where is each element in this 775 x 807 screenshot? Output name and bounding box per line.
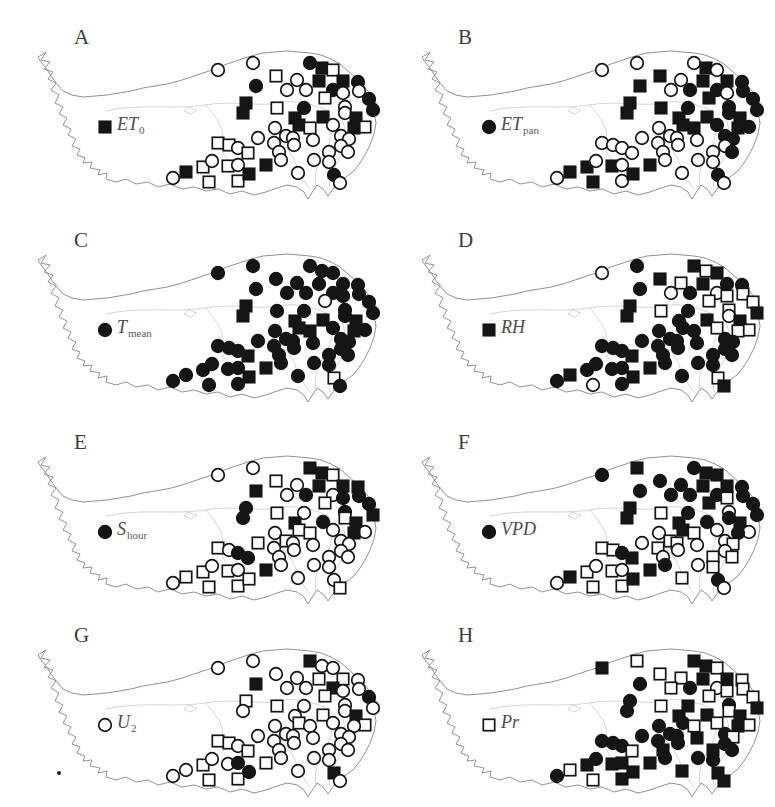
- station-marker-filled-square: [337, 75, 348, 86]
- station-marker-filled-square: [627, 766, 638, 777]
- station-marker-open-square: [721, 685, 732, 696]
- station-marker-open-square: [626, 745, 637, 756]
- station-marker-filled-circle: [327, 322, 340, 335]
- station-marker-filled-square: [655, 102, 666, 113]
- station-marker-filled-circle: [732, 527, 745, 540]
- station-marker-filled-circle: [672, 342, 685, 355]
- station-marker-open-circle: [308, 559, 321, 572]
- station-marker-filled-circle: [751, 509, 764, 522]
- station-marker-filled-square: [317, 314, 328, 325]
- station-marker-filled-circle: [616, 362, 629, 375]
- station-marker-open-circle: [308, 752, 321, 765]
- station-marker-open-circle: [288, 139, 301, 152]
- station-marker-open-circle: [342, 744, 355, 757]
- station-marker-open-square: [675, 277, 686, 288]
- station-marker-open-square: [654, 668, 665, 679]
- station-marker-filled-circle: [337, 290, 350, 303]
- station-marker-open-circle: [659, 154, 672, 167]
- station-marker-filled-square: [237, 107, 248, 118]
- station-marker-filled-circle: [726, 744, 739, 757]
- station-marker-open-circle: [281, 682, 294, 695]
- station-marker-open-square: [721, 492, 732, 503]
- station-marker-open-square: [252, 537, 263, 548]
- station-marker-open-square: [242, 147, 253, 158]
- station-marker-open-circle: [626, 147, 639, 160]
- station-marker-filled-circle: [654, 475, 667, 488]
- station-marker-filled-circle: [313, 278, 326, 291]
- panel-letter: E: [74, 430, 88, 455]
- station-marker-open-square: [203, 581, 214, 592]
- station-marker-filled-circle: [288, 342, 301, 355]
- station-marker-filled-square: [596, 662, 607, 673]
- station-marker-open-square: [721, 290, 732, 301]
- station-marker-filled-circle: [636, 730, 649, 743]
- station-marker-open-circle: [653, 122, 666, 135]
- station-marker-filled-square: [711, 469, 722, 480]
- tibetan-plateau-map: [394, 420, 765, 615]
- station-marker-filled-square: [691, 732, 702, 743]
- station-marker-open-circle: [337, 87, 350, 100]
- station-marker-filled-square: [367, 509, 378, 520]
- station-marker-filled-square: [654, 70, 665, 81]
- station-marker-filled-circle: [684, 287, 697, 300]
- station-marker-filled-square: [242, 350, 253, 361]
- station-marker-open-circle: [718, 177, 731, 190]
- station-marker-open-circle: [691, 134, 704, 147]
- station-marker-open-circle: [308, 154, 321, 167]
- station-marker-filled-square: [703, 92, 714, 103]
- station-marker-open-circle: [275, 559, 288, 572]
- station-marker-filled-circle: [271, 305, 284, 318]
- station-marker-open-circle: [711, 524, 724, 537]
- station-marker-open-square: [203, 176, 214, 187]
- station-marker-filled-circle: [596, 469, 609, 482]
- station-marker-filled-circle: [616, 378, 629, 391]
- station-marker-filled-circle: [634, 283, 647, 296]
- station-marker-open-square: [232, 175, 243, 186]
- station-marker-filled-circle: [691, 337, 704, 350]
- station-marker-open-circle: [596, 267, 609, 280]
- station-marker-open-circle: [167, 577, 180, 590]
- station-marker-filled-circle: [275, 357, 288, 370]
- station-marker-open-square: [743, 719, 754, 730]
- station-marker-filled-square: [644, 362, 655, 373]
- station-marker-filled-square: [700, 467, 711, 478]
- station-marker-open-circle: [672, 139, 685, 152]
- station-marker-filled-square: [654, 273, 665, 284]
- station-marker-filled-circle: [232, 757, 245, 770]
- station-marker-filled-circle: [653, 325, 666, 338]
- panel-H: H Pr: [394, 613, 765, 807]
- panel-D: D RH: [394, 218, 765, 413]
- station-marker-open-circle: [675, 74, 688, 87]
- variable-label: Tmean: [117, 317, 152, 339]
- station-marker-filled-circle: [684, 682, 697, 695]
- station-marker-filled-square: [313, 75, 324, 86]
- station-marker-open-circle: [237, 705, 250, 718]
- station-marker-filled-circle: [304, 57, 317, 70]
- station-marker-open-square: [260, 757, 271, 768]
- station-marker-open-circle: [212, 662, 225, 675]
- station-marker-open-circle: [212, 64, 225, 77]
- station-marker-filled-circle: [292, 370, 305, 383]
- station-marker-filled-square: [564, 369, 575, 380]
- station-marker-filled-circle: [590, 358, 603, 371]
- variable-label: Shour: [117, 519, 147, 541]
- station-marker-filled-circle: [339, 310, 352, 323]
- station-marker-filled-square: [293, 322, 304, 333]
- station-marker-filled-circle: [243, 766, 256, 779]
- station-marker-filled-circle: [676, 370, 689, 383]
- station-marker-filled-square: [243, 371, 254, 382]
- station-marker-filled-square: [701, 111, 712, 122]
- station-marker-filled-circle: [270, 273, 283, 286]
- station-marker-open-circle: [292, 167, 305, 180]
- station-marker-open-circle: [247, 462, 260, 475]
- station-marker-filled-circle: [367, 104, 380, 117]
- station-marker-open-circle: [291, 479, 304, 492]
- station-marker-filled-square: [718, 775, 729, 786]
- station-marker-filled-square: [697, 75, 708, 86]
- station-marker-filled-circle: [483, 121, 496, 134]
- station-marker-open-square: [243, 573, 254, 584]
- station-marker-open-circle: [616, 564, 629, 577]
- station-marker-open-circle: [304, 720, 317, 733]
- station-marker-filled-circle: [688, 325, 701, 338]
- station-marker-filled-circle: [551, 770, 564, 783]
